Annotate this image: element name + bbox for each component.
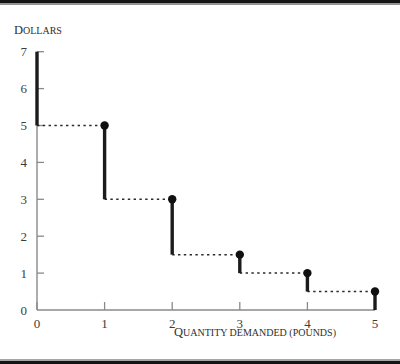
data-point-4 <box>371 287 379 295</box>
chart-screenshot: 01234567 012345 DOLLARS QUANTITY DEMANDE… <box>0 0 400 364</box>
x-axis-title: QUANTITY DEMANDED (POUNDS) <box>174 325 336 339</box>
data-point-3 <box>303 269 311 277</box>
x-tick-label-0: 0 <box>34 316 41 331</box>
x-tick-label-5: 5 <box>372 316 379 331</box>
y-tick-label-6: 6 <box>21 81 28 96</box>
data-point-0 <box>100 121 108 129</box>
data-point-1 <box>168 195 176 203</box>
y-axis-tick-labels: 01234567 <box>21 44 28 317</box>
data-point-2 <box>236 250 244 258</box>
x-tick-label-1: 1 <box>101 316 108 331</box>
x-axis-ticks <box>37 302 307 310</box>
step-risers <box>37 52 375 310</box>
y-tick-label-7: 7 <box>21 44 28 59</box>
demand-step-chart: 01234567 012345 DOLLARS QUANTITY DEMANDE… <box>0 0 400 364</box>
y-tick-label-2: 2 <box>21 229 28 244</box>
y-axis: 01234567 <box>21 44 45 317</box>
y-tick-label-1: 1 <box>21 266 28 281</box>
y-tick-label-3: 3 <box>21 192 28 207</box>
y-tick-label-5: 5 <box>21 118 28 133</box>
step-treads <box>37 126 375 292</box>
y-tick-label-0: 0 <box>21 303 28 318</box>
chart-svg: 01234567 012345 DOLLARS QUANTITY DEMANDE… <box>0 0 400 364</box>
y-axis-title: DOLLARS <box>14 23 62 37</box>
y-tick-label-4: 4 <box>21 155 28 170</box>
